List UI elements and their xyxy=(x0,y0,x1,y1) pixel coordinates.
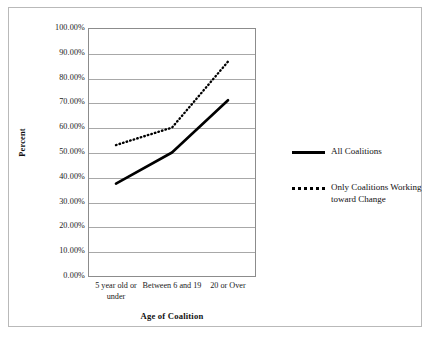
y-axis-tick: 40.00% xyxy=(23,173,85,181)
y-axis-tick: 20.00% xyxy=(23,222,85,230)
y-axis-tick: 100.00% xyxy=(23,24,85,32)
y-axis-tick: 80.00% xyxy=(23,74,85,82)
x-axis-tick: 5 year old or under xyxy=(85,281,147,302)
y-axis-tick: 30.00% xyxy=(23,198,85,206)
y-axis-tick: 90.00% xyxy=(23,49,85,57)
chart-frame: Percent 100.00% 90.00% 80.00% 70.00% 60.… xyxy=(8,7,422,327)
chart-figure: Percent 100.00% 90.00% 80.00% 70.00% 60.… xyxy=(0,0,431,339)
legend-solid-line-icon xyxy=(292,151,325,158)
legend-label: Only Coalitions Working toward Change xyxy=(331,182,431,205)
chart-legend: All Coalitions Only Coalitions Working t… xyxy=(292,146,431,227)
x-axis-title: Age of Coalition xyxy=(88,311,256,321)
y-axis-tick: 70.00% xyxy=(23,98,85,106)
legend-label: All Coalitions xyxy=(331,146,431,158)
y-axis-tick: 10.00% xyxy=(23,247,85,255)
x-axis-tick: 20 or Over xyxy=(197,281,259,292)
series-line-all-coalitions xyxy=(116,100,228,183)
x-axis-tick-labels: 5 year old or under Between 6 and 19 20 … xyxy=(88,281,256,311)
legend-item-only-coalitions-working-toward-change: Only Coalitions Working toward Change xyxy=(292,182,431,205)
x-axis-tick: Between 6 and 19 xyxy=(141,281,203,292)
series-line-only-coalitions-working-toward-change xyxy=(116,62,228,145)
y-axis-tick: 60.00% xyxy=(23,123,85,131)
y-axis-tick: 0.00% xyxy=(23,272,85,280)
y-axis-tick: 50.00% xyxy=(23,148,85,156)
legend-item-all-coalitions: All Coalitions xyxy=(292,146,431,160)
y-axis-tick-labels: 100.00% 90.00% 80.00% 70.00% 60.00% 50.0… xyxy=(19,28,85,277)
legend-dotted-line-icon xyxy=(292,187,325,194)
series-lines-layer xyxy=(88,28,256,277)
